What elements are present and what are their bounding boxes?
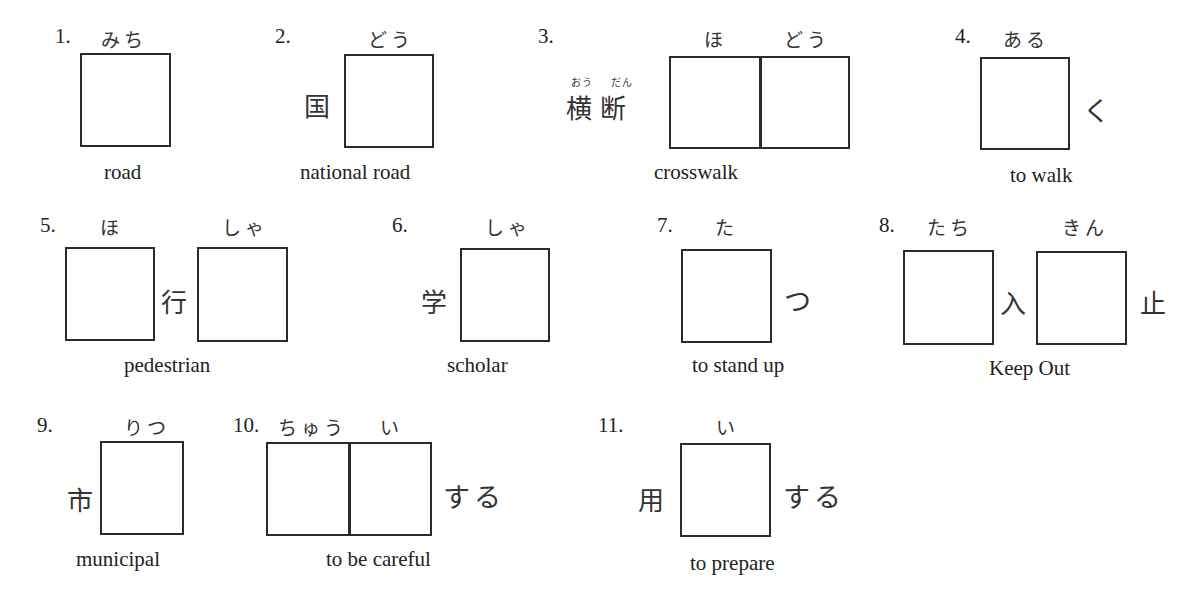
item-number: 2. [275, 24, 291, 49]
item-number: 1. [55, 24, 71, 49]
meaning: national road [300, 160, 410, 185]
item-number: 10. [233, 413, 259, 438]
answer-box[interactable] [100, 441, 184, 535]
reading: ほ [100, 213, 123, 240]
reading: た [715, 213, 738, 240]
reading: ほ [704, 25, 727, 52]
reading: どう [368, 25, 414, 52]
box-divider [759, 58, 762, 147]
given-kanji: 用 [638, 480, 664, 517]
meaning: road [104, 160, 141, 185]
item-number: 9. [37, 413, 53, 438]
answer-box[interactable] [1036, 251, 1127, 345]
meaning: to walk [1010, 163, 1072, 188]
meaning: municipal [76, 547, 160, 572]
given-kanji: 学 [421, 282, 447, 319]
reading: きん [1062, 213, 1108, 240]
furigana: おう [571, 74, 593, 89]
reading: たち [927, 213, 973, 240]
item-number: 3. [538, 24, 554, 49]
answer-box[interactable] [681, 249, 772, 343]
furigana: だん [611, 74, 633, 89]
given-kanji: 行 [161, 282, 187, 319]
reading: しゃ [485, 213, 531, 240]
okurigana: く [1083, 90, 1110, 129]
item-number: 4. [955, 24, 971, 49]
given-kanji: 国 [304, 86, 330, 123]
given-kanji: 止 [1140, 283, 1166, 320]
meaning: pedestrian [124, 353, 210, 378]
meaning: scholar [447, 353, 508, 378]
given-kanji: 入 [1000, 283, 1026, 320]
item-number: 5. [40, 213, 56, 238]
item-number: 8. [879, 213, 895, 238]
okurigana: つ [784, 280, 811, 319]
answer-box[interactable] [80, 53, 171, 147]
reading: どう [784, 25, 830, 52]
meaning: Keep Out [989, 356, 1070, 381]
reading: ある [1003, 25, 1049, 52]
item-number: 6. [392, 213, 408, 238]
answer-box-double[interactable] [669, 56, 850, 149]
given-kanji: 横断 [566, 88, 634, 125]
meaning: to stand up [692, 353, 784, 378]
reading: い [380, 413, 403, 440]
answer-box[interactable] [460, 248, 550, 342]
answer-box[interactable] [903, 250, 994, 345]
reading: みち [101, 25, 147, 52]
box-divider [348, 444, 351, 534]
okurigana: する [783, 476, 845, 515]
answer-box[interactable] [197, 247, 288, 342]
reading: しゃ [222, 213, 268, 240]
answer-box[interactable] [344, 54, 434, 148]
answer-box-double[interactable] [266, 442, 432, 536]
answer-box[interactable] [980, 57, 1070, 150]
meaning: to be careful [326, 547, 431, 572]
reading: りつ [124, 413, 170, 440]
reading: い [716, 413, 739, 440]
okurigana: する [443, 476, 505, 515]
answer-box[interactable] [65, 247, 155, 341]
item-number: 11. [598, 413, 623, 438]
meaning: to prepare [690, 551, 775, 576]
answer-box[interactable] [680, 443, 771, 537]
meaning: crosswalk [654, 160, 738, 185]
reading: ちゅう [278, 413, 347, 440]
given-kanji: 市 [67, 480, 93, 517]
item-number: 7. [657, 213, 673, 238]
